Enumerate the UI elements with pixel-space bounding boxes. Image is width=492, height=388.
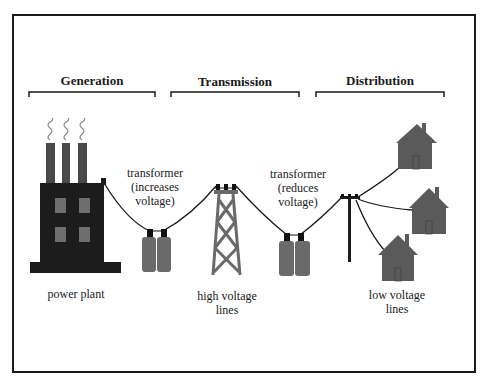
distribution-heading: Distribution bbox=[310, 73, 450, 89]
label-line: voltage) bbox=[258, 195, 338, 209]
house-icon bbox=[409, 187, 449, 234]
low-voltage-lines-label: low voltage lines bbox=[355, 288, 439, 316]
distribution-bracket bbox=[316, 92, 444, 97]
high-voltage-lines-label: high voltage lines bbox=[185, 289, 269, 317]
label-line: transformer bbox=[258, 167, 338, 181]
house-icon bbox=[378, 234, 418, 281]
label-line: lines bbox=[185, 303, 269, 317]
step-down-transformer-icon bbox=[279, 233, 310, 276]
generation-bracket bbox=[29, 92, 155, 97]
label-line: transformer bbox=[115, 166, 195, 180]
generation-heading: Generation bbox=[22, 73, 162, 89]
label-line: low voltage bbox=[355, 288, 439, 302]
smoke-icon bbox=[48, 118, 85, 140]
label-line: high voltage bbox=[185, 289, 269, 303]
transmission-tower-icon bbox=[213, 184, 240, 275]
power-plant-label: power plant bbox=[26, 287, 126, 301]
step-up-transformer-label: transformer (increases voltage) bbox=[115, 166, 195, 208]
transmission-bracket bbox=[171, 92, 299, 97]
label-line: (increases bbox=[115, 180, 195, 194]
power-grid-illustration bbox=[0, 0, 492, 388]
power-plant-icon bbox=[30, 118, 121, 273]
utility-pole-icon bbox=[340, 194, 360, 262]
label-line: (reduces bbox=[258, 181, 338, 195]
label-line: lines bbox=[355, 302, 439, 316]
transmission-heading: Transmission bbox=[165, 74, 305, 90]
label-line: voltage) bbox=[115, 194, 195, 208]
step-up-transformer-icon bbox=[142, 229, 171, 272]
step-down-transformer-label: transformer (reduces voltage) bbox=[258, 167, 338, 209]
house-icon bbox=[396, 123, 437, 169]
